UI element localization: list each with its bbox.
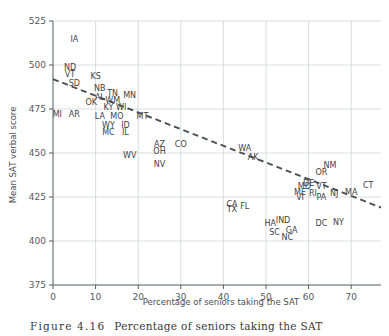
data-point-label: MC	[102, 128, 115, 137]
data-point-label: NY	[333, 218, 344, 227]
trend-line	[53, 79, 381, 207]
x-tick-label: 0	[50, 292, 56, 302]
figure-container: 375400425450475500525 010203040506070 IA…	[0, 0, 389, 336]
data-point-label: IND	[276, 216, 291, 225]
y-tick-label: 450	[29, 148, 46, 158]
data-point-label: TX	[226, 205, 238, 214]
data-point-label: CT	[363, 181, 374, 190]
data-point-label: OR	[315, 168, 327, 177]
x-axis-title: Percentage of seniors taking the SAT	[143, 297, 300, 307]
grid-lines	[53, 21, 381, 285]
figure-caption-text: Percentage of seniors taking the SAT	[114, 320, 322, 332]
data-point-label: PA	[316, 193, 326, 202]
x-tick-label: 60	[303, 292, 315, 302]
data-point-label: CO	[175, 140, 187, 149]
regression-trend-line	[53, 79, 381, 207]
y-tick-labels: 375400425450475500525	[29, 16, 46, 290]
data-point-label: HA	[264, 219, 276, 228]
y-tick-label: 375	[29, 280, 46, 290]
data-point-label: NC	[281, 233, 293, 242]
data-point-label: NB	[94, 84, 105, 93]
figure-caption: Figure 4.16Percentage of seniors taking …	[30, 320, 323, 332]
x-tick-label: 70	[345, 292, 357, 302]
figure-caption-number: Figure 4.16	[30, 320, 105, 332]
data-point-label: IL	[122, 128, 129, 137]
y-tick-label: 400	[29, 236, 46, 246]
data-point-label: OK	[86, 98, 98, 107]
data-point-label: NV	[154, 160, 166, 169]
y-tick-label: 475	[29, 104, 46, 114]
data-point-label: SC	[269, 228, 280, 237]
data-point-label: KY	[103, 103, 113, 112]
data-point-labels: IANDVTKSSDNBTNMNALWMOKKYWIMIARLAMOMTWYID…	[53, 35, 374, 243]
y-tick-label: 425	[29, 192, 46, 202]
sat-scatter-plot: 375400425450475500525 010203040506070 IA…	[0, 0, 389, 336]
data-point-label: WA	[238, 144, 251, 153]
data-point-label: VT	[65, 70, 75, 79]
data-point-label: DC	[315, 219, 327, 228]
data-point-label: MI	[53, 110, 62, 119]
y-tick-label: 525	[29, 16, 46, 26]
data-point-label: OH	[153, 147, 165, 156]
data-point-label: VI	[296, 193, 304, 202]
axis-ticks	[49, 21, 351, 289]
data-point-label: MN	[123, 91, 136, 100]
data-point-label: IA	[70, 35, 78, 44]
x-tick-label: 10	[90, 292, 102, 302]
data-point-label: KS	[90, 72, 100, 81]
data-point-label: FL	[240, 202, 250, 211]
data-point-label: MO	[110, 112, 123, 121]
data-point-label: AR	[69, 110, 80, 119]
data-point-label: SD	[69, 79, 80, 88]
y-axis-title: Mean SAT verbal score	[8, 107, 18, 204]
data-point-label: WI	[116, 103, 126, 112]
data-point-label: WV	[123, 151, 137, 160]
y-tick-label: 500	[29, 60, 46, 70]
data-point-label: LA	[95, 112, 106, 121]
